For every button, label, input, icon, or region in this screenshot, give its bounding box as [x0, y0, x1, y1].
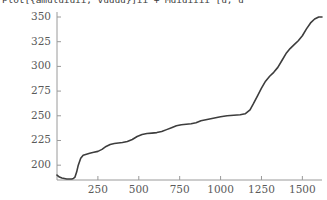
y-tick-label: 350 [17, 10, 51, 22]
y-axis-group [57, 12, 61, 180]
y-tick-label: 225 [17, 133, 51, 145]
x-tick-label: 1250 [241, 183, 281, 195]
x-tick-label: 250 [78, 183, 118, 195]
y-tick-label: 300 [17, 59, 51, 71]
x-tick-label: 500 [119, 183, 159, 195]
y-tick-label: 275 [17, 84, 51, 96]
x-tick-marks [98, 176, 302, 180]
x-tick-label: 750 [160, 183, 200, 195]
y-tick-marks [57, 17, 61, 165]
data-series-line [57, 17, 322, 179]
x-axis-group [57, 176, 322, 180]
x-tick-label: 1500 [282, 183, 322, 195]
x-tick-label: 1000 [201, 183, 241, 195]
y-tick-label: 325 [17, 35, 51, 47]
y-tick-label: 200 [17, 158, 51, 170]
chart-root: Plot[{amuluiuii, vuuuu}]ii + Muiuiiii [u… [0, 0, 327, 200]
y-tick-label: 250 [17, 109, 51, 121]
